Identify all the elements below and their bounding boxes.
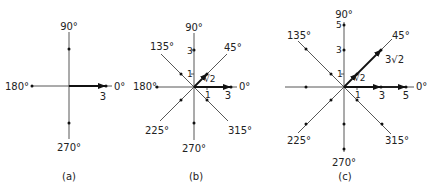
point-135-3 (305, 48, 308, 51)
label-225: 225° (145, 125, 169, 136)
vector-label-3: 3 (379, 90, 385, 101)
point-90-5 (343, 24, 346, 27)
point-270-3 (343, 123, 346, 126)
label-180: 180° (133, 81, 157, 92)
panel-c: 90° 135° 45° 0° 225° 315° 270° 5 3 1 1 √… (285, 9, 427, 182)
vector-3sqrt2 (357, 50, 381, 74)
point-135-1 (330, 73, 333, 76)
point-90-3 (343, 49, 346, 52)
vector-label-3sqrt2: 3√2 (385, 54, 404, 65)
label-180: 180° (5, 81, 29, 92)
label-270: 270° (332, 157, 356, 168)
panel-a: 90° 180° 0° 270° 3 (a) (5, 21, 125, 182)
label-135: 135° (150, 41, 174, 52)
label-90: 90° (335, 9, 353, 20)
caption-b: (b) (189, 171, 203, 182)
tick-label-y1: 1 (337, 69, 343, 79)
tick-label-y1: 1 (187, 69, 193, 79)
point-225-3 (305, 123, 308, 126)
label-270: 270° (182, 143, 206, 154)
tick-label-x1: 1 (205, 90, 211, 100)
point-270-5 (343, 148, 346, 151)
tick-label-x1: 1 (355, 90, 361, 100)
point-135 (180, 73, 183, 76)
label-0: 0° (239, 81, 250, 92)
label-0: 0° (416, 81, 427, 92)
vector-label-sqrt2: √2 (354, 73, 365, 83)
vector-label: 3 (100, 91, 106, 102)
tick-label-y3: 3 (187, 46, 193, 56)
polar-diagrams: 90° 180° 0° 270° 3 (a) 90° 135° 45° 180°… (0, 0, 430, 188)
label-270: 270° (57, 142, 81, 153)
point-270 (193, 122, 196, 125)
label-135: 135° (287, 30, 311, 41)
point-90 (68, 48, 71, 51)
panel-b: 90° 135° 45° 180° 0° 225° 315° 270° 3 1 … (133, 22, 252, 182)
label-0: 0° (114, 81, 125, 92)
label-225: 225° (287, 135, 311, 146)
tick-label-y5: 5 (336, 20, 342, 30)
label-45: 45° (392, 30, 410, 41)
caption-a: (a) (62, 171, 76, 182)
caption-c: (c) (338, 171, 351, 182)
point-180-3 (305, 86, 308, 89)
vector-label-sqrt2: √2 (204, 74, 215, 84)
label-45: 45° (224, 42, 242, 53)
vector-label-3: 3 (225, 90, 231, 101)
point-225 (180, 99, 183, 102)
label-90: 90° (185, 22, 203, 33)
label-90: 90° (60, 21, 78, 32)
point-225-1 (330, 99, 333, 102)
point-270 (68, 122, 71, 125)
point-180 (31, 85, 34, 88)
label-315: 315° (385, 135, 409, 146)
vector-label-5: 5 (403, 90, 409, 101)
point-315-3 (381, 123, 384, 126)
label-315: 315° (228, 125, 252, 136)
tick-label-y3: 3 (336, 45, 342, 55)
